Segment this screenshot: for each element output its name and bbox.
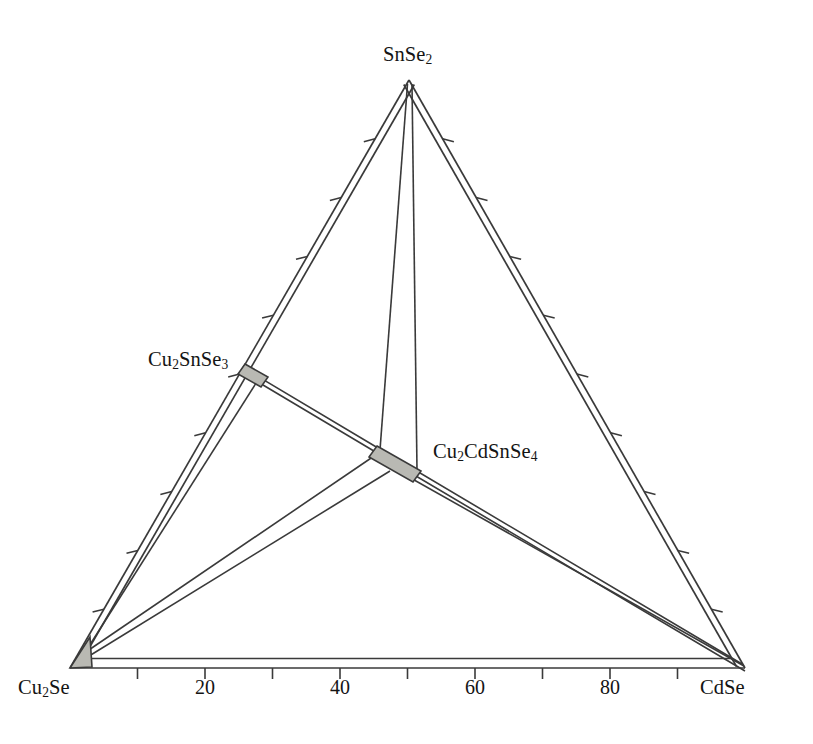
phase-label-cu2snse3: Cu2SnSe3 (148, 349, 228, 370)
phase-label-cu2cdsnse4: Cu2CdSnSe4 (433, 441, 538, 462)
diagram-canvas: .edge-line { stroke: #3a3a3a; stroke-wid… (0, 0, 813, 744)
ternary-phase-diagram: .edge-line { stroke: #3a3a3a; stroke-wid… (0, 0, 813, 744)
tie-line-cu2se-cu2cdsnse4-lower (81, 471, 390, 661)
vertex-label-cdse: CdSe (700, 677, 745, 698)
tick-label-bottom-20: 20 (175, 677, 235, 697)
tie-line-cu2snse3-cdse-upper (252, 373, 742, 664)
tie-line-cu2se-cu2cdsnse4-upper (80, 452, 380, 656)
tie-line-snse2-cu2cdsnse4-left (380, 84, 408, 450)
tick-label-bottom-60: 60 (445, 677, 505, 697)
phase-region-cu2cdsnse4[interactable] (369, 446, 421, 482)
tie-line-snse2-cu2cdsnse4-right (412, 84, 417, 470)
ticks-right (443, 139, 723, 612)
phase-region-cu2se-corner[interactable] (70, 637, 92, 668)
tick-label-bottom-80: 80 (580, 677, 640, 697)
tie-lines: Cu2CdSnSe4 --> CdSe : double line --> Cu… (80, 84, 745, 671)
ticks-left (93, 139, 376, 612)
vertex-label-cu2se: Cu2Se (18, 677, 70, 698)
triangle-outline (70, 80, 745, 668)
vertex-label-snse2: SnSe2 (383, 44, 432, 65)
tie-line-cdse-cu2cdsnse4-lower (400, 472, 744, 666)
edge-right-inner (404, 85, 737, 667)
phase-regions (70, 364, 421, 668)
tie-line-cu2se-cu2snse3 (86, 380, 258, 651)
tie-line-cu2snse3-cdse-lower (263, 385, 745, 671)
tick-label-bottom-40: 40 (310, 677, 370, 697)
